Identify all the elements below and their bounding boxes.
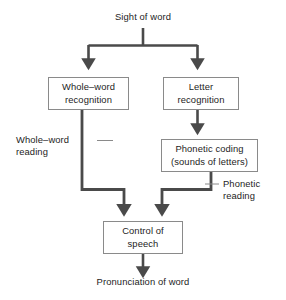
node-whole-word-recognition-line2: recognition <box>65 94 112 106</box>
node-whole-word-recognition-line1: Whole–word <box>62 81 115 93</box>
entry-label-text: Sight of word <box>88 11 198 23</box>
node-phonetic-coding-line1: Phonetic coding <box>175 143 243 155</box>
connector-whole-word-to-control <box>82 110 124 210</box>
path-label-whole-word-reading: Whole–word reading <box>16 134 98 159</box>
node-letter-recognition-line2: recognition <box>178 94 225 106</box>
path-label-whole-word-reading-line2: reading <box>16 146 98 158</box>
connector-phonetic-to-control <box>162 172 211 210</box>
path-label-phonetic-reading-line1: Phonetic <box>223 178 283 190</box>
connector-sight-to-split <box>89 28 198 46</box>
path-label-phonetic-reading: Phonetic reading <box>223 178 283 203</box>
node-phonetic-coding-line2: (sounds of letters) <box>171 156 248 168</box>
outcome-label-text: Pronunciation of word <box>63 276 223 288</box>
path-label-phonetic-reading-line2: reading <box>223 190 283 202</box>
reading-model-diagram: Sight of word Whole–word recognition Let… <box>0 0 286 300</box>
node-letter-recognition: Letter recognition <box>163 77 239 110</box>
node-control-of-speech-line1: Control of <box>122 225 164 237</box>
diagram-outcome-label: Pronunciation of word <box>63 276 223 288</box>
path-label-whole-word-reading-line1: Whole–word <box>16 134 98 146</box>
node-whole-word-recognition: Whole–word recognition <box>48 77 129 110</box>
diagram-entry-label: Sight of word <box>88 11 198 23</box>
node-phonetic-coding: Phonetic coding (sounds of letters) <box>161 139 258 172</box>
node-control-of-speech: Control of speech <box>103 221 183 254</box>
node-letter-recognition-line1: Letter <box>189 81 214 93</box>
node-control-of-speech-line2: speech <box>128 238 159 250</box>
